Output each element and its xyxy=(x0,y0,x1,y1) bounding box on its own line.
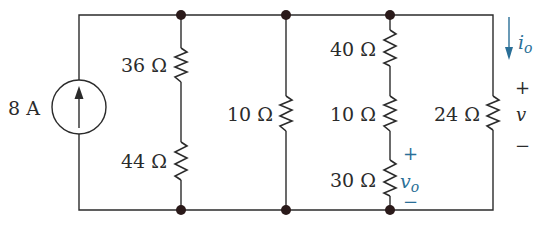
resistor-zigzag-icon xyxy=(280,96,292,131)
resistor-10-branch3: 10 Ω xyxy=(330,96,396,131)
io-annotation: io xyxy=(505,17,533,60)
resistor-zigzag-icon xyxy=(384,30,396,66)
resistor-zigzag-icon xyxy=(175,48,187,82)
resistor-label-40: 40 Ω xyxy=(330,38,376,60)
resistor-zigzag-icon xyxy=(487,96,499,130)
resistor-40: 40 Ω xyxy=(330,30,396,66)
source-label: 8 A xyxy=(8,97,40,119)
circuit-diagram: 8 A 36 Ω 44 Ω 10 Ω 40 Ω 10 Ω 30 Ω 24 Ω xyxy=(0,0,538,237)
resistor-label-44: 44 Ω xyxy=(121,150,167,172)
resistor-zigzag-icon xyxy=(175,142,187,180)
v-plus: + xyxy=(515,77,530,98)
node-dot xyxy=(385,10,395,20)
resistor-label-36: 36 Ω xyxy=(121,54,167,76)
resistor-10-branch2: 10 Ω xyxy=(227,96,292,131)
vo-minus: − xyxy=(403,191,418,212)
resistor-label-10a: 10 Ω xyxy=(227,103,273,125)
arrow-down-icon xyxy=(505,47,513,60)
node-dot xyxy=(281,10,291,20)
resistor-label-30: 30 Ω xyxy=(330,169,376,191)
resistor-zigzag-icon xyxy=(384,96,396,131)
v-minus: − xyxy=(515,135,530,156)
resistor-30: 30 Ω xyxy=(330,160,396,196)
vo-plus: + xyxy=(403,143,418,164)
current-source-8a: 8 A xyxy=(8,80,106,134)
v-label: v xyxy=(516,104,526,125)
vo-annotation: + vo − xyxy=(400,143,419,212)
io-label: io xyxy=(518,31,533,56)
resistor-44: 44 Ω xyxy=(121,142,187,180)
resistor-zigzag-icon xyxy=(384,160,396,196)
resistor-36: 36 Ω xyxy=(121,48,187,82)
resistor-label-24: 24 Ω xyxy=(434,103,480,125)
resistor-label-10b: 10 Ω xyxy=(330,103,376,125)
resistor-24: 24 Ω xyxy=(434,96,499,130)
node-dot xyxy=(176,10,186,20)
node-dot xyxy=(385,205,395,215)
arrow-up-icon xyxy=(75,86,84,99)
v-annotation: + v − xyxy=(515,77,530,156)
node-dot xyxy=(281,205,291,215)
node-dot xyxy=(176,205,186,215)
